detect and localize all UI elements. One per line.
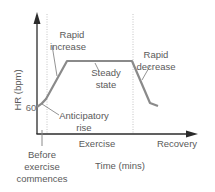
x-axis-arrow-icon xyxy=(186,131,198,138)
rapid-increase-label-2: increase xyxy=(48,41,88,52)
recovery-phase-label: Recovery xyxy=(152,138,202,149)
y-axis-label: HR (bpm) xyxy=(12,71,23,111)
rapid-decrease-label-2: decrease xyxy=(136,61,176,72)
y-tick-60: 60 xyxy=(24,102,38,113)
rapid-increase-label-1: Rapid xyxy=(52,29,92,40)
anticipatory-label-2: rise xyxy=(56,122,112,133)
steady-state-label-1: Steady xyxy=(86,67,126,78)
steady-state-label-2: state xyxy=(86,79,126,90)
before-exercise-label-1: Before xyxy=(17,149,67,160)
before-exercise-label-3: commences xyxy=(12,173,72,184)
rapid-decrease-label-1: Rapid xyxy=(136,49,176,60)
exercise-phase-label: Exercise xyxy=(72,138,122,149)
before-exercise-label-2: exercise xyxy=(17,161,67,172)
anticipatory-label-1: Anticipatory xyxy=(56,110,112,121)
x-axis-label: Time (mins) xyxy=(90,160,150,171)
y-axis-arrow-icon xyxy=(34,12,41,24)
